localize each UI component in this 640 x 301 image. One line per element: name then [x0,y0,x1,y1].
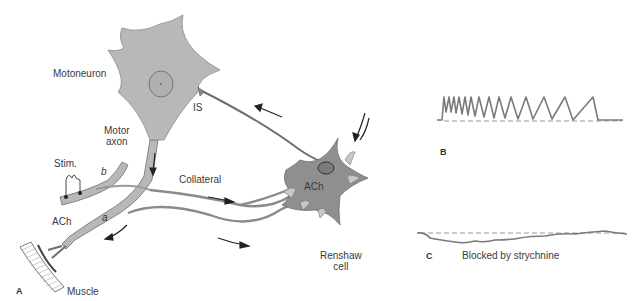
label-collateral: Collateral [179,174,221,185]
motoneuron-soma [108,15,220,140]
label-motoneuron: Motoneuron [53,68,106,79]
label-muscle: Muscle [67,286,99,297]
label-renshaw-cell: Renshaw cell [320,250,362,272]
label-motor-axon-line2: axon [104,136,130,147]
muscle-fiber [20,242,64,292]
label-initial-segment: IS [193,102,202,113]
label-renshaw-line1: Renshaw [320,250,362,261]
trace-c-caption: Blocked by strychnine [462,250,559,261]
label-renshaw-line2: cell [320,261,362,272]
label-stim: Stim. [54,158,77,169]
panel-label-c: C [426,251,433,261]
trace-b [437,97,623,121]
label-motor-axon-line1: Motor [104,125,130,136]
trace-c [417,231,627,243]
panel-label-a: A [16,286,23,296]
label-ach-muscle: ACh [52,216,71,227]
label-motor-axon: Motor axon [104,125,130,147]
label-ach-renshaw: ACh [304,181,323,192]
label-branch-b: b [101,166,107,177]
recurrent-collateral [128,188,305,221]
renshaw-axon [200,90,322,162]
label-branch-a: a [102,212,108,223]
panel-label-b: B [440,147,447,157]
